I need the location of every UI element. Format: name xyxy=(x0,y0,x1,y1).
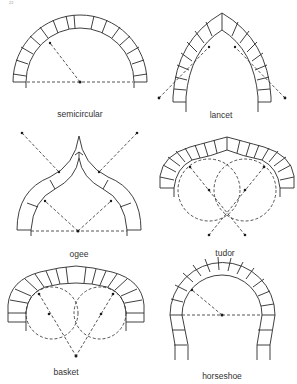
label-ogee: ogee xyxy=(70,249,89,259)
page-number: 22 xyxy=(9,0,14,5)
label-basket: basket xyxy=(53,367,79,377)
tudor-arch-diagram: tudor xyxy=(160,137,294,258)
label-lancet: lancet xyxy=(210,110,233,120)
label-semicircular: semicircular xyxy=(57,109,103,119)
basket-arch-diagram: basket xyxy=(8,266,144,377)
semicircular-arch-diagram: semicircular xyxy=(13,15,147,119)
label-tudor: tudor xyxy=(215,248,235,258)
lancet-arch-diagram: lancet xyxy=(158,13,287,120)
ogee-arch-diagram: ogee xyxy=(17,132,141,259)
horseshoe-arch-diagram: horseshoe xyxy=(170,257,275,381)
label-horseshoe: horseshoe xyxy=(202,371,242,381)
